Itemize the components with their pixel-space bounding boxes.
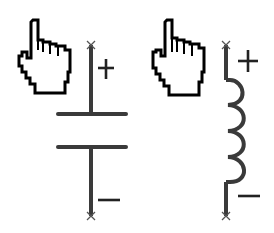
inductor-minus-label: − [249,196,250,197]
inductor-plus-label: + [248,61,249,62]
inductor-coil [226,80,244,182]
hand-pointer-icon [153,20,204,95]
capacitor-minus-label: − [109,200,110,201]
capacitor-plus-label: + [106,68,107,69]
hand-pointer-icon [19,20,70,93]
circuit-diagram [0,0,274,233]
plus-sign-icon [98,59,114,79]
inductor-component [153,20,260,220]
capacitor-component [19,20,126,220]
